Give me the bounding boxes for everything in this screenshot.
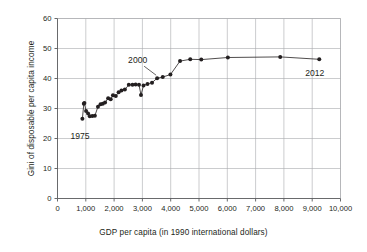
y-tick-label: 20 [28, 134, 52, 143]
x-axis-title: GDP per capita (in 1990 international do… [0, 228, 367, 237]
y-tick-label: 30 [28, 104, 52, 113]
chart-figure: GDP per capita (in 1990 international do… [0, 0, 367, 252]
y-tick-label: 10 [28, 164, 52, 173]
grid-lines [58, 19, 341, 199]
annotation-label-2012: 2012 [305, 68, 324, 78]
y-tick-label: 60 [28, 14, 52, 23]
y-tick-label: 50 [28, 44, 52, 53]
y-tick-label: 40 [28, 74, 52, 83]
y-tick-label: 0 [28, 194, 52, 203]
axis-ticks [55, 19, 341, 202]
annotation-label-1975: 1975 [70, 131, 89, 141]
chart-plot-area [0, 0, 367, 252]
annotation-label-2000: 2000 [128, 55, 147, 65]
annotation-leader-lines [144, 66, 156, 75]
x-tick-label: 10,000 [321, 204, 361, 213]
data-markers [80, 55, 321, 121]
